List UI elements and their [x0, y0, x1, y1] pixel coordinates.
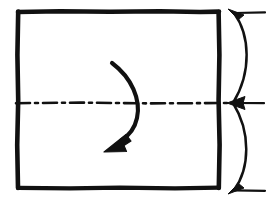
horizontal-centerline — [16, 103, 228, 104]
plate-edge-bottom — [18, 188, 219, 189]
plate-outline — [17, 11, 219, 188]
dimension-arc-upper — [233, 13, 247, 103]
bottom-arrow-tick — [228, 184, 265, 195]
middle-arrow-tick — [227, 97, 264, 110]
rotation-arrow-head — [104, 135, 131, 153]
centerline-stroke — [16, 103, 228, 104]
top-arrow-tick — [228, 9, 265, 20]
plate-edge-right — [219, 12, 220, 188]
plate-edge-left — [17, 12, 18, 188]
plate-edge-top — [18, 11, 219, 12]
rotation-arrow — [104, 63, 138, 152]
sketch-canvas: Hand-drawn technical sketch: rectangular… — [0, 0, 271, 206]
dimension-bracket — [227, 9, 265, 194]
technical-sketch-svg: Hand-drawn technical sketch: rectangular… — [0, 0, 271, 206]
dimension-arc-lower — [233, 103, 246, 190]
